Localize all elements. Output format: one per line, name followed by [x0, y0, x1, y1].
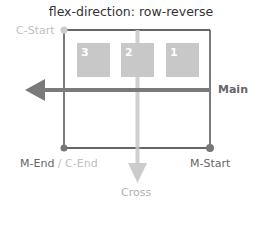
separator: /: [54, 157, 65, 170]
m-end-c-end-label: M-End / C-End: [20, 157, 98, 170]
main-label: Main: [218, 83, 248, 96]
cross-label: Cross: [121, 186, 151, 199]
m-start-label: M-Start: [190, 157, 230, 170]
m-start-dot: [206, 144, 214, 152]
c-start-dot: [61, 27, 68, 34]
cross-arrow-head: [128, 163, 147, 183]
m-end-dot: [61, 145, 68, 152]
c-end-label: C-End: [65, 157, 98, 170]
m-end-label: M-End: [20, 157, 54, 170]
c-start-label: C-Start: [16, 24, 55, 37]
main-arrow-head: [25, 79, 45, 101]
